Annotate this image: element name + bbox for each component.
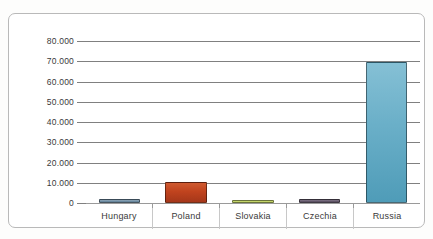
y-axis-tick [77,82,86,83]
bar-slot [286,41,353,203]
category-label-slovakia: Slovakia [235,211,271,221]
category-axis-labels: HungaryPolandSlovakiaCzechiaRussia [86,203,420,229]
bars-group [86,41,420,203]
bar-slot [353,41,420,203]
category-cell: Poland [153,203,220,229]
y-axis-tick [77,183,86,184]
y-axis-tick-label: 70.000 [47,56,74,66]
y-axis-tick-label: 40.000 [47,117,74,127]
y-axis-tick [77,203,86,204]
bar-poland[interactable] [165,182,206,203]
plot-area: 80.00070.00060.00050.00040.00030.00020.0… [86,41,420,203]
y-axis-tick-label: 0 [69,198,74,208]
category-cell: Czechia [287,203,354,229]
bar-slot [220,41,287,203]
y-axis-tick [77,102,86,103]
y-axis-tick [77,142,86,143]
category-label-poland: Poland [171,211,200,221]
y-axis-tick-label: 20.000 [47,158,74,168]
category-label-russia: Russia [373,211,402,221]
y-axis-tick [77,41,86,42]
category-cell: Slovakia [220,203,287,229]
y-axis-tick-label: 10.000 [47,178,74,188]
y-axis-tick-label: 80.000 [47,36,74,46]
y-axis-tick-label: 60.000 [47,77,74,87]
bar-slot [86,41,153,203]
y-axis-tick [77,122,86,123]
category-label-czechia: Czechia [303,211,337,221]
y-axis-tick-label: 30.000 [47,137,74,147]
y-axis-tick [77,163,86,164]
chart-frame: 80.00070.00060.00050.00040.00030.00020.0… [8,13,425,228]
chart-root: 80.00070.00060.00050.00040.00030.00020.0… [0,0,433,239]
category-cell: Russia [354,203,420,229]
bar-slot [153,41,220,203]
category-label-hungary: Hungary [101,211,136,221]
y-axis-tick-label: 50.000 [47,97,74,107]
y-axis-tick [77,61,86,62]
category-cell: Hungary [86,203,153,229]
bar-russia[interactable] [366,62,407,203]
